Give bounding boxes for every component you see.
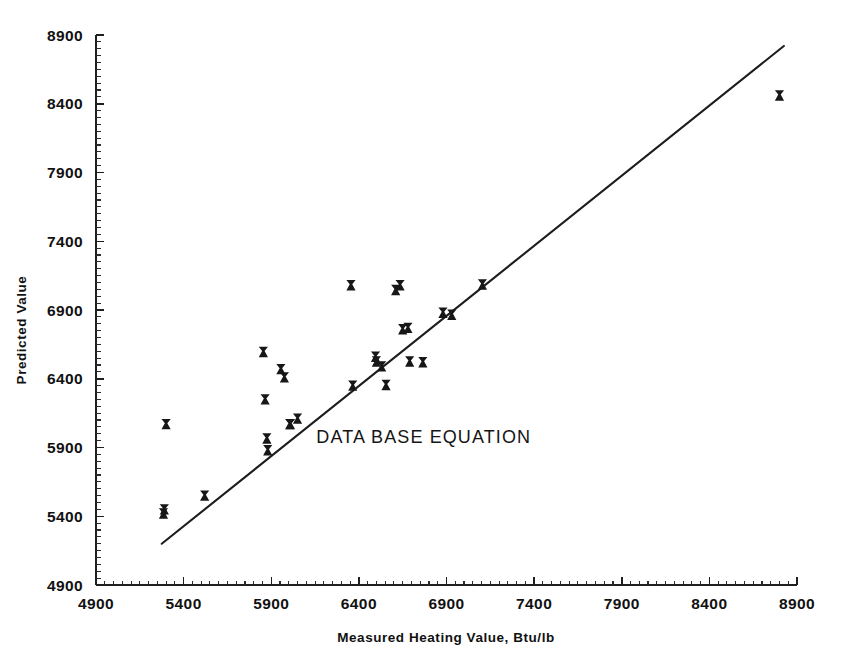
x-tick-label: 6400 [341, 595, 377, 612]
y-tick-label: 7400 [47, 233, 83, 250]
data-point [775, 90, 784, 100]
data-point [438, 308, 447, 318]
data-point [259, 347, 268, 357]
data-point [348, 380, 357, 390]
data-point [418, 357, 427, 367]
x-tick-label: 7400 [516, 595, 552, 612]
fit-line [162, 46, 784, 544]
data-point [403, 323, 412, 333]
x-axis-title: Measured Heating Value, Btu/lb [337, 630, 555, 645]
plot-annotation-text: DATA BASE EQUATION [316, 427, 531, 447]
axis-lines [96, 35, 797, 585]
data-point [262, 433, 271, 443]
regression-line [162, 46, 784, 544]
scatter-markers [159, 90, 784, 518]
data-point [200, 490, 209, 500]
x-tick-label: 7900 [604, 595, 640, 612]
y-tick-label: 8400 [47, 95, 83, 112]
x-axis-tick-labels: 490054005900640069007400790084008900 [78, 595, 815, 612]
x-tick-label: 4900 [78, 595, 114, 612]
data-point [263, 445, 272, 455]
x-tick-label: 8400 [691, 595, 727, 612]
data-point [261, 394, 270, 404]
x-tick-label: 5400 [166, 595, 202, 612]
y-axis-tick-labels: 490054005900640069007400790084008900 [47, 27, 83, 594]
y-tick-label: 5900 [47, 439, 83, 456]
data-point [381, 380, 390, 390]
y-tick-label: 8900 [47, 27, 83, 44]
y-tick-label: 6900 [47, 302, 83, 319]
data-point [162, 419, 171, 429]
data-point [346, 280, 355, 290]
x-tick-label: 8900 [779, 595, 815, 612]
plot-annotations: DATA BASE EQUATION [316, 427, 531, 447]
scatter-plot-figure: 490054005900640069007400790084008900 490… [0, 0, 842, 658]
y-axis-title: Predicted Value [14, 276, 29, 385]
data-point [280, 372, 289, 382]
y-tick-label: 7900 [47, 164, 83, 181]
data-point [293, 413, 302, 423]
y-tick-label: 4900 [47, 577, 83, 594]
plot-canvas: 490054005900640069007400790084008900 490… [0, 0, 842, 658]
y-tick-label: 5400 [47, 508, 83, 525]
x-tick-label: 5900 [253, 595, 289, 612]
data-point [286, 419, 295, 429]
x-tick-label: 6900 [428, 595, 464, 612]
data-point [405, 356, 414, 366]
y-tick-label: 6400 [47, 370, 83, 387]
